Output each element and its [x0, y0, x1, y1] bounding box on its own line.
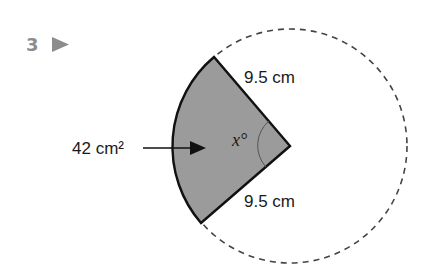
- question-number: 3: [26, 34, 39, 55]
- area-label: 42 cm²: [72, 139, 124, 158]
- radius-label-bottom: 9.5 cm: [244, 192, 295, 211]
- radius-label-top: 9.5 cm: [244, 68, 295, 87]
- sector-diagram: 3 9.5 cm 9.5 cm 42 cm² x°: [0, 0, 430, 267]
- angle-label: x°: [231, 130, 247, 150]
- right-triangle-icon: [52, 37, 69, 52]
